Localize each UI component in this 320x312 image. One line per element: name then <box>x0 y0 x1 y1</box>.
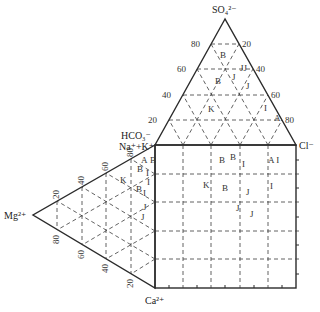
svg-text:80: 80 <box>285 115 295 125</box>
sample-point-top_triangle: J <box>232 72 236 82</box>
bicarbonate-label: HCO₃⁻ <box>121 130 151 141</box>
svg-text:80: 80 <box>191 39 201 49</box>
svg-text:40: 40 <box>162 90 172 100</box>
sample-point-left_triangle: B <box>137 164 143 174</box>
sample-point-left_triangle: K <box>120 175 127 185</box>
svg-text:20: 20 <box>125 279 135 289</box>
cation-lower-ticks: 80 60 40 20 <box>51 235 135 289</box>
svg-text:20: 20 <box>148 115 158 125</box>
sample-point-square: J <box>236 203 240 213</box>
svg-text:40: 40 <box>256 64 266 74</box>
sample-point-top_triangle: K <box>208 104 215 114</box>
sample-point-top_triangle: JJ <box>240 63 248 73</box>
sample-point-top_triangle: J <box>246 81 250 91</box>
sample-point-left_triangle: B <box>136 184 142 194</box>
sample-point-left_triangle: B <box>150 155 156 165</box>
svg-text:80: 80 <box>125 148 135 158</box>
sample-point-square: K <box>203 180 210 190</box>
svg-text:20: 20 <box>242 39 252 49</box>
sample-point-square: B <box>222 183 228 193</box>
cation-upper-ticks: 20 40 60 80 <box>51 148 135 200</box>
diamond-field <box>155 145 300 288</box>
magnesium-label: Mg²⁺ <box>4 210 26 221</box>
sample-point-left_triangle: I <box>147 177 150 187</box>
svg-text:40: 40 <box>76 176 86 186</box>
svg-text:60: 60 <box>100 162 110 172</box>
sample-point-square: A I <box>268 155 279 165</box>
sample-point-square: J <box>246 187 250 197</box>
svg-text:60: 60 <box>76 250 86 260</box>
svg-text:60: 60 <box>177 64 187 74</box>
piper-diagram: SO₄²⁻ Cl⁻ 20 40 60 80 20 40 60 80 HCO <box>0 0 320 312</box>
sample-point-left_triangle: J <box>143 202 147 212</box>
calcium-label: Ca²⁺ <box>145 295 164 306</box>
svg-text:60: 60 <box>271 90 281 100</box>
sulfate-label: SO₄²⁻ <box>212 4 237 15</box>
svg-text:20: 20 <box>51 190 61 200</box>
sample-point-top_triangle: I <box>264 103 267 113</box>
sample-point-left_triangle: I <box>143 188 146 198</box>
chloride-label: Cl⁻ <box>299 140 314 151</box>
svg-text:40: 40 <box>100 264 110 274</box>
sample-point-top_triangle: B <box>220 50 226 60</box>
sample-point-left_triangle: J <box>141 212 145 222</box>
sample-point-square: I <box>270 181 273 191</box>
svg-text:80: 80 <box>51 235 61 245</box>
anion-triangle <box>155 19 296 145</box>
sample-point-square: B <box>230 152 236 162</box>
sample-point-square: I <box>242 159 245 169</box>
sample-point-square: J <box>250 209 254 219</box>
sample-point-top_triangle: A <box>274 113 281 123</box>
sample-point-top_triangle: B <box>215 76 221 86</box>
sample-point-square: B <box>219 155 225 165</box>
